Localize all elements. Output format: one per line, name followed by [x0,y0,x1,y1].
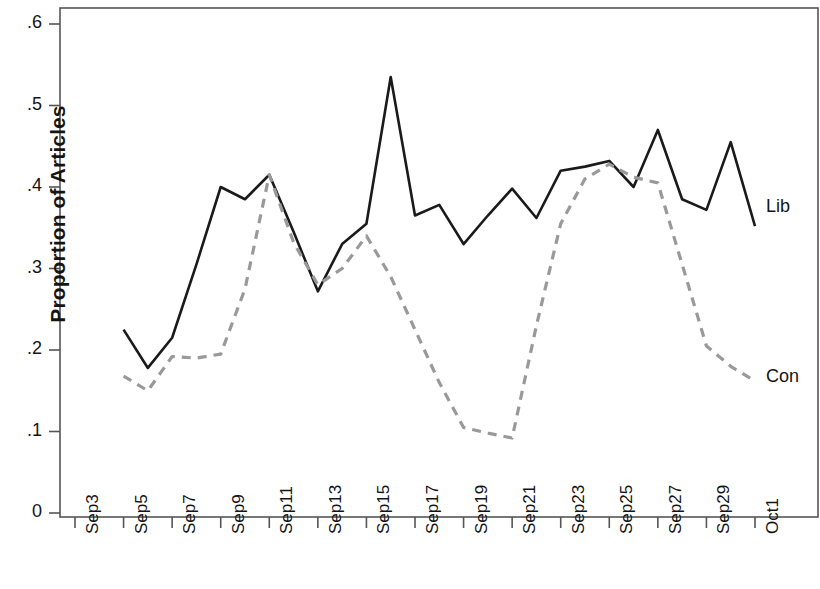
x-tick-label: Sep25 [617,485,637,534]
x-tick-label: Sep7 [180,494,200,534]
y-tick-label: .5 [0,94,42,115]
x-tick-label: Oct1 [763,498,783,534]
x-tick-label: Sep15 [374,485,394,534]
plot-frame [60,8,818,517]
x-tick-label: Sep21 [520,485,540,534]
y-tick-label: .1 [0,420,42,441]
x-axis-ticks [75,517,755,528]
data-series-group [124,77,755,438]
x-tick-label: Sep11 [277,486,297,534]
y-axis-title: Proportion of Articles [46,64,70,364]
y-tick-label: 0 [0,501,42,522]
plot-border [60,8,818,517]
y-tick-label: .6 [0,12,42,33]
x-tick-label: Sep29 [714,485,734,534]
x-tick-label: Sep19 [472,485,492,534]
series-label-lib: Lib [766,196,790,217]
y-tick-label: .3 [0,257,42,278]
x-tick-label: Sep17 [423,485,443,534]
x-tick-label: Sep9 [229,494,249,534]
chart-container: Proportion of Articles 0.1.2.3.4.5.6 Sep… [0,0,820,589]
x-tick-label: Sep27 [666,485,686,534]
y-tick-label: .2 [0,338,42,359]
series-label-con: Con [766,366,799,387]
x-tick-label: Sep5 [132,494,152,534]
x-tick-label: Sep23 [569,485,589,534]
x-tick-label: Sep3 [83,494,103,534]
line-chart [0,0,820,589]
y-tick-label: .4 [0,175,42,196]
series-line-lib [124,77,755,368]
x-tick-label: Sep13 [326,485,346,534]
